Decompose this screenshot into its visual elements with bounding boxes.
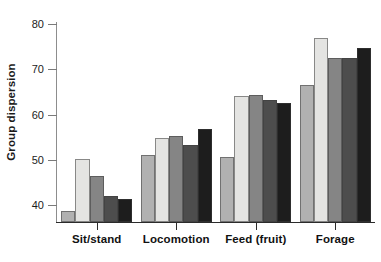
x-group-label: Sit/stand [72,233,121,245]
bar-chart: Group dispersion 4050607080 Sit/standLoc… [0,0,381,262]
y-tick-mark [48,205,57,206]
bar [328,58,342,222]
bar [314,38,328,222]
y-tick-label: 80 [0,18,44,30]
x-tick-mark [256,223,257,230]
y-tick-mark [48,160,57,161]
bar [234,96,248,222]
bar [61,211,75,222]
y-tick-mark [48,115,57,116]
x-axis-line [56,222,375,223]
y-axis-line [56,22,57,223]
bar [169,136,183,222]
bar [263,100,277,222]
bar [198,129,212,222]
y-tick-label: 50 [0,154,44,166]
x-tick-mark [335,223,336,230]
y-tick-mark [48,69,57,70]
x-group-label: Feed (fruit) [225,233,286,245]
y-tick-label: 60 [0,109,44,121]
x-tick-mark [97,223,98,230]
bar [90,176,104,222]
y-tick-label: 40 [0,199,44,211]
bar [104,196,118,222]
x-tick-mark [176,223,177,230]
bar [183,145,197,222]
bar [155,138,169,222]
bar [118,199,132,222]
y-tick-label: 70 [0,63,44,75]
bar [249,95,263,222]
x-group-label: Forage [316,233,355,245]
bar [220,157,234,222]
y-tick-mark [48,24,57,25]
bar [75,159,89,222]
bar [277,103,291,222]
bar [357,48,371,222]
bar [141,155,155,222]
x-group-label: Locomotion [143,233,210,245]
bar [342,58,356,222]
bar [300,85,314,222]
